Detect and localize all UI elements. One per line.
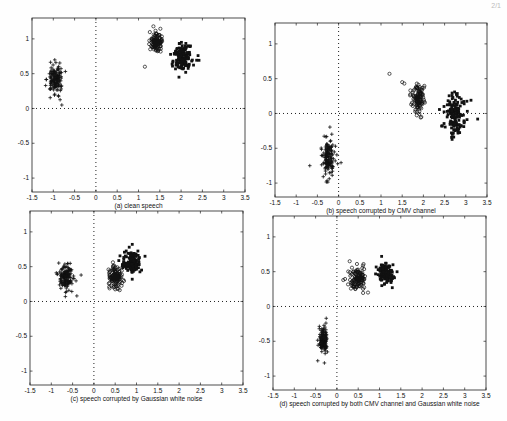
circle-marker — [143, 65, 146, 68]
data-points — [308, 72, 479, 184]
plus-marker — [57, 94, 61, 98]
square-marker — [457, 107, 460, 110]
plus-marker — [74, 279, 78, 283]
plus-marker — [320, 350, 324, 354]
square-marker — [117, 259, 120, 262]
x-tick-label: 0 — [335, 392, 339, 399]
square-marker — [125, 267, 128, 270]
x-tick-label: 2.5 — [196, 387, 205, 394]
plus-marker — [79, 273, 83, 277]
plus-marker — [321, 175, 325, 179]
x-tick-label: 0 — [94, 194, 98, 201]
x-tick-label: 2 — [420, 392, 424, 399]
square-marker — [456, 95, 459, 98]
square-marker — [123, 251, 126, 254]
x-tick-label: 1.5 — [153, 387, 162, 394]
square-marker — [466, 110, 469, 113]
x-tick-label: 0 — [92, 387, 96, 394]
plus-marker — [75, 294, 79, 298]
x-tick-label: 3 — [464, 199, 468, 206]
y-tick-label: 0.5 — [18, 263, 27, 270]
x-tick-label: 0.5 — [355, 199, 364, 206]
square-marker — [131, 263, 134, 266]
plus-marker — [316, 359, 320, 363]
y-tick-label: -0.5 — [259, 337, 271, 344]
square-marker — [443, 110, 446, 113]
square-marker — [476, 118, 479, 121]
x-tick-label: 1.5 — [396, 392, 405, 399]
square-marker — [457, 132, 460, 135]
circle-marker — [388, 72, 391, 75]
x-tick-label: 3 — [463, 392, 467, 399]
square-marker — [136, 250, 139, 253]
x-tick-label: -0.5 — [310, 392, 322, 399]
square-marker — [180, 48, 183, 51]
square-marker — [452, 96, 455, 99]
circle-marker — [148, 43, 151, 46]
square-marker — [184, 64, 187, 67]
square-marker — [457, 129, 460, 132]
square-marker — [126, 263, 129, 266]
square-marker — [178, 76, 181, 79]
square-marker — [453, 123, 456, 126]
square-marker — [447, 99, 450, 102]
scatter-panel-d: -1.5-1-0.500.511.522.533.5-1-0.500.51 (d… — [249, 212, 494, 412]
x-tick-label: -1.5 — [269, 199, 281, 206]
x-tick-label: -1.5 — [24, 387, 36, 394]
square-marker — [454, 113, 457, 116]
x-tick-label: -1 — [50, 194, 56, 201]
square-marker — [380, 255, 383, 258]
x-tick-label: 1 — [378, 392, 382, 399]
circle-marker — [346, 283, 349, 286]
y-tick-label: -0.5 — [18, 139, 30, 146]
square-marker — [454, 108, 457, 111]
x-tick-label: 2 — [422, 199, 426, 206]
square-marker — [382, 271, 385, 274]
square-marker — [390, 279, 393, 282]
square-marker — [454, 104, 457, 107]
square-marker — [180, 41, 183, 44]
square-marker — [465, 100, 468, 103]
plus-marker — [333, 159, 337, 163]
square-marker — [387, 265, 390, 268]
square-marker — [441, 124, 444, 127]
square-marker — [176, 60, 179, 63]
square-marker — [128, 246, 131, 249]
y-tick-label: 1 — [25, 35, 29, 42]
square-marker — [128, 252, 131, 255]
square-marker — [449, 123, 452, 126]
square-marker — [375, 266, 378, 269]
square-marker — [457, 119, 460, 122]
square-marker — [130, 268, 133, 271]
square-marker — [184, 48, 187, 51]
square-marker — [456, 92, 459, 95]
x-tick-label: 2.5 — [198, 194, 207, 201]
y-tick-label: 0 — [23, 298, 27, 305]
square-marker — [174, 50, 177, 53]
square-marker — [184, 71, 187, 74]
x-tick-label: -1 — [48, 387, 54, 394]
y-tick-label: 0.5 — [20, 70, 29, 77]
square-marker — [131, 278, 134, 281]
square-marker — [179, 66, 182, 69]
square-marker — [443, 105, 446, 108]
square-marker — [453, 91, 456, 94]
y-tick-label: 0 — [268, 110, 272, 117]
plus-marker — [58, 98, 62, 102]
square-marker — [198, 59, 201, 62]
axes-box — [30, 211, 243, 385]
square-marker — [189, 45, 192, 48]
plus-marker — [308, 164, 312, 168]
square-marker — [188, 63, 191, 66]
circle-marker — [409, 89, 412, 92]
x-tick-label: 1 — [137, 194, 141, 201]
square-marker — [438, 108, 441, 111]
square-marker — [139, 270, 142, 273]
y-tick-label: 0.5 — [261, 268, 270, 275]
square-marker — [392, 263, 395, 266]
circle-marker — [355, 262, 358, 265]
x-tick-label: 1.5 — [398, 199, 407, 206]
plus-marker — [59, 89, 63, 93]
page-number-mark: 2/1 — [491, 2, 501, 9]
circle-marker — [111, 261, 114, 264]
